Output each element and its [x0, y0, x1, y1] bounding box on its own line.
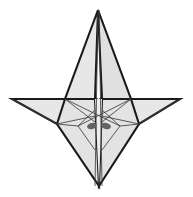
figure-canvas: [0, 0, 193, 197]
origami-diagram: [0, 0, 193, 197]
